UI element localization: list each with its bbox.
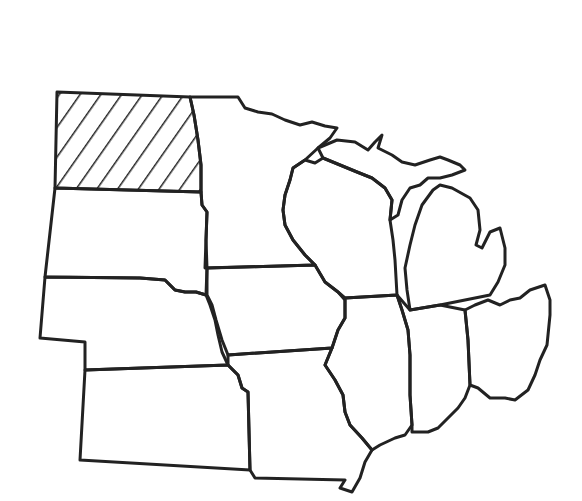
state-wisconsin[interactable] <box>283 158 397 298</box>
state-missouri[interactable] <box>228 348 372 492</box>
state-ohio[interactable] <box>465 285 550 400</box>
state-nebraska[interactable] <box>40 277 228 370</box>
state-kansas[interactable] <box>80 365 250 470</box>
midwest-map <box>0 0 582 501</box>
state-indiana[interactable] <box>397 295 470 432</box>
state-north-dakota[interactable] <box>55 92 201 192</box>
state-michigan-lower[interactable] <box>405 185 505 310</box>
state-michigan-upper[interactable] <box>318 135 465 220</box>
state-illinois[interactable] <box>325 295 412 450</box>
state-minnesota[interactable] <box>190 97 337 268</box>
